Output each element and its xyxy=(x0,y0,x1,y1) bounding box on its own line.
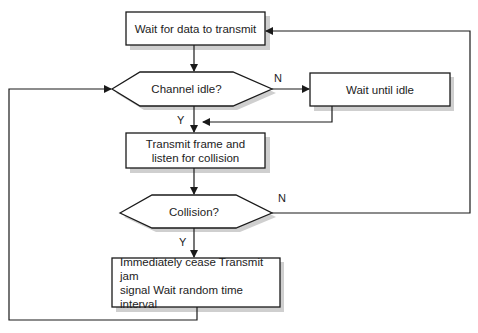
label-transmit-line2: listen for collision xyxy=(152,151,240,165)
label-collision: Collision? xyxy=(152,195,236,228)
label-transmit: Transmit frame and listen for collision xyxy=(126,133,265,168)
label-cease-line1: Immediately cease Transmit jam xyxy=(120,255,280,283)
edge-label-collision-no: N xyxy=(278,192,286,204)
edge-label-collision-yes: Y xyxy=(179,236,186,248)
edge-label-idle-no: N xyxy=(274,72,282,84)
edge-label-idle-yes: Y xyxy=(177,114,184,126)
label-cease-line2: signal Wait random time interval xyxy=(120,283,280,311)
label-wait-data: Wait for data to transmit xyxy=(126,12,265,45)
label-wait-idle: Wait until idle xyxy=(310,73,450,106)
label-channel-idle: Channel idle? xyxy=(140,72,233,106)
label-transmit-line1: Transmit frame and xyxy=(146,137,245,151)
label-cease: Immediately cease Transmit jam signal Wa… xyxy=(112,258,280,307)
